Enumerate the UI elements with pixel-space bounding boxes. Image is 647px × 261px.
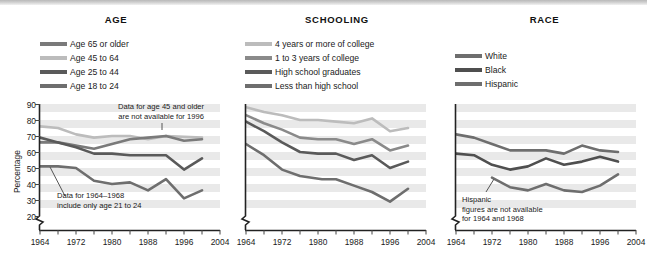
x-tick-label: 2004	[623, 237, 647, 247]
x-tick-label: 1980	[99, 237, 125, 247]
x-tick-label: 1988	[341, 237, 367, 247]
axes-age	[0, 0, 232, 261]
x-tick-label: 1996	[587, 237, 613, 247]
x-tick-label: 1964	[443, 237, 469, 247]
x-tick-label: 1996	[171, 237, 197, 247]
x-tick-label: 1964	[233, 237, 259, 247]
x-tick-label: 1988	[135, 237, 161, 247]
annotation-age-1964-note: Data for 1964–1968 include only age 21 t…	[57, 191, 141, 210]
panel-race: RACE White Black Hispanic	[442, 0, 647, 261]
x-tick-label: 1964	[27, 237, 53, 247]
x-tick-label: 1980	[515, 237, 541, 247]
panel-age: AGE Age 65 or older Age 45 to 64 Age 25 …	[0, 0, 232, 261]
panel-schooling: SCHOOLING 4 years or more of college 1 t…	[232, 0, 442, 261]
x-tick-label: 1972	[269, 237, 295, 247]
x-tick-label: 1972	[479, 237, 505, 247]
annotation-hispanic-note: Hispanic figures are not available for 1…	[462, 195, 543, 224]
x-tick-label: 1988	[551, 237, 577, 247]
x-tick-label: 2004	[207, 237, 233, 247]
chart-figure: AGE Age 65 or older Age 45 to 64 Age 25 …	[0, 0, 647, 261]
x-tick-label: 1996	[377, 237, 403, 247]
x-tick-label: 1972	[63, 237, 89, 247]
annotation-age-45-note: Data for age 45 and older are not availa…	[118, 102, 204, 121]
x-tick-label: 1980	[305, 237, 331, 247]
x-tick-label: 2004	[413, 237, 439, 247]
axes-schooling	[232, 0, 442, 261]
